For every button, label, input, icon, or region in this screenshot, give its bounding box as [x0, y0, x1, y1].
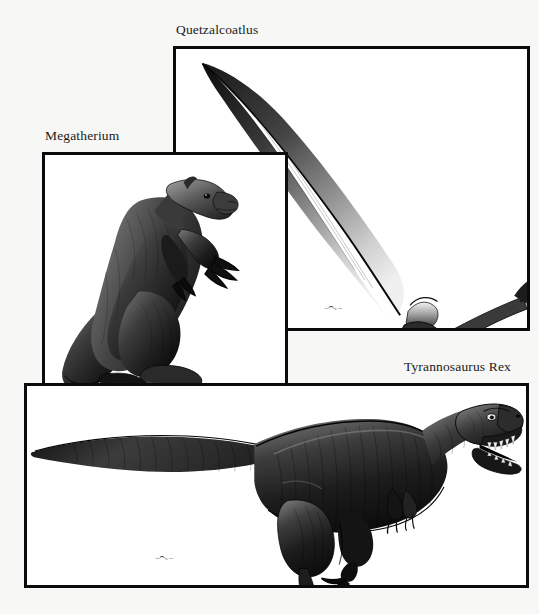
artist-signature-tyrannosaurus: ⁓⁀∿⁓ [155, 556, 174, 561]
panel-tyrannosaurus: ⁓⁀∿⁓ [24, 383, 529, 588]
panel-megatherium: ⁓⁀∿⁓ [42, 152, 288, 404]
tyrannosaurus-illustration [27, 386, 526, 585]
artist-signature-quetzalcoatlus: ⁓⁀∿⁓ [324, 306, 343, 311]
panel-label-tyrannosaurus: Tyrannosaurus Rex [404, 360, 511, 374]
panel-label-quetzalcoatlus: Quetzalcoatlus [176, 23, 258, 37]
illustration-plate: Quetzalcoatlus [0, 0, 539, 614]
megatherium-illustration [45, 155, 285, 401]
panel-label-megatherium: Megatherium [45, 129, 119, 143]
